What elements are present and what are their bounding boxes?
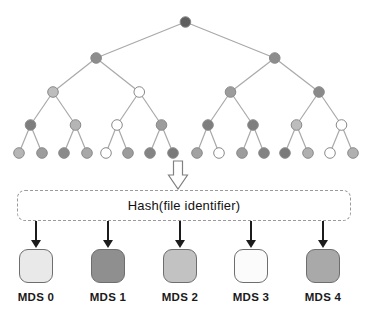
down-arrow-head: [246, 240, 256, 248]
hash-input-arrow-icon: [169, 161, 188, 189]
mds-label: MDS 3: [233, 291, 270, 303]
tree-nodes: [14, 17, 359, 159]
down-arrow-shaft: [35, 221, 38, 240]
mds-box: [19, 249, 53, 283]
mds-box: [163, 249, 197, 283]
mds-unit: MDS 4: [287, 221, 359, 303]
tree-edge: [96, 22, 185, 58]
tree-node: [82, 148, 93, 159]
tree-node: [37, 148, 48, 159]
tree-edge: [96, 58, 139, 92]
mds-box: [234, 249, 268, 283]
down-arrow-icon: [103, 221, 113, 248]
tree-edge: [53, 58, 96, 92]
tree-node: [314, 87, 325, 98]
tree-node: [348, 148, 359, 159]
tree-node: [48, 87, 59, 98]
tree-edge: [231, 92, 254, 125]
down-arrow-icon: [246, 221, 256, 248]
tree-node: [291, 120, 302, 131]
mds-box: [306, 249, 340, 283]
down-arrow-head: [31, 240, 41, 248]
tree-node: [269, 53, 280, 64]
tree-edge: [139, 92, 161, 125]
tree-node: [156, 120, 167, 131]
down-arrow-shaft: [250, 221, 253, 240]
tree-node: [259, 148, 270, 159]
tree-node: [214, 148, 225, 159]
tree-node: [25, 120, 36, 131]
hash-tree-diagram: [0, 0, 370, 190]
down-arrow-head: [318, 240, 328, 248]
down-arrow-icon: [31, 221, 41, 248]
tree-node: [237, 148, 248, 159]
tree-edge: [319, 92, 342, 125]
mds-unit: MDS 2: [144, 221, 216, 303]
mds-unit: MDS 1: [72, 221, 144, 303]
down-arrow-icon: [318, 221, 328, 248]
hash-function-label: Hash(file identifier): [128, 198, 241, 213]
tree-node: [203, 120, 214, 131]
tree-edges: [19, 22, 353, 153]
down-arrow-head: [103, 240, 113, 248]
tree-node: [280, 148, 291, 159]
tree-node: [303, 148, 314, 159]
mds-label: MDS 2: [162, 291, 199, 303]
hash-function-box: Hash(file identifier): [17, 190, 351, 221]
tree-node: [123, 148, 134, 159]
tree-node: [14, 148, 25, 159]
tree-node: [70, 120, 81, 131]
mds-unit: MDS 3: [215, 221, 287, 303]
tree-node: [225, 87, 236, 98]
down-arrow-shaft: [322, 221, 325, 240]
tree-node: [336, 120, 347, 131]
tree-node: [59, 148, 70, 159]
tree-node: [145, 148, 156, 159]
down-arrow-head: [175, 240, 185, 248]
down-arrow-shaft: [179, 221, 182, 240]
mds-label: MDS 1: [90, 291, 127, 303]
down-arrow-shaft: [107, 221, 110, 240]
tree-node: [325, 148, 336, 159]
tree-edge: [117, 92, 139, 125]
tree-node: [134, 87, 145, 98]
tree-edge: [185, 22, 274, 58]
tree-node: [101, 148, 112, 159]
mds-box: [91, 249, 125, 283]
tree-edge: [208, 92, 231, 125]
tree-edge: [53, 92, 76, 125]
tree-edge: [231, 58, 275, 92]
tree-node: [168, 148, 179, 159]
diagram-canvas: Hash(file identifier) MDS 0MDS 1MDS 2MDS…: [0, 0, 370, 317]
mds-unit: MDS 0: [0, 221, 72, 303]
tree-node: [180, 17, 191, 28]
mds-label: MDS 4: [305, 291, 342, 303]
down-arrow-icon: [175, 221, 185, 248]
tree-node: [192, 148, 203, 159]
tree-node: [91, 53, 102, 64]
tree-edge: [31, 92, 54, 125]
tree-node: [248, 120, 259, 131]
tree-edge: [275, 58, 319, 92]
mds-label: MDS 0: [18, 291, 55, 303]
tree-edge: [297, 92, 320, 125]
tree-node: [112, 120, 123, 131]
